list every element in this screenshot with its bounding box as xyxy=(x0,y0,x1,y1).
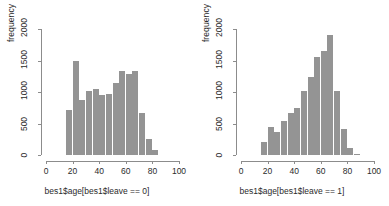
histogram-bar xyxy=(73,61,79,155)
x-axis-title-left: bes1$age[bes1$leave == 0] xyxy=(0,186,194,196)
histogram-bar xyxy=(132,71,138,155)
x-tick-label: 0 xyxy=(34,166,58,176)
histogram-bar xyxy=(321,51,327,155)
x-tick-mark xyxy=(126,161,127,164)
histogram-bar xyxy=(288,113,294,155)
x-tick-mark xyxy=(241,161,242,164)
histogram-panel-leave-0: frequency 0500100015002000 020406080100 … xyxy=(0,0,194,206)
x-tick-label: 0 xyxy=(229,166,253,176)
x-axis-title-right: bes1$age[bes1$leave == 1] xyxy=(195,186,389,196)
histogram-bar xyxy=(66,110,72,155)
x-tick-mark xyxy=(321,161,322,164)
histogram-bar xyxy=(139,113,145,155)
x-axis-line xyxy=(46,161,179,162)
histogram-bar xyxy=(347,148,353,155)
histogram-bar xyxy=(301,91,307,155)
x-tick-mark xyxy=(347,161,348,164)
histogram-bar xyxy=(146,139,152,155)
plot-area-left xyxy=(0,0,194,155)
histogram-bar xyxy=(334,91,340,155)
y-tick-mark xyxy=(38,155,41,156)
histogram-bar xyxy=(86,91,92,155)
x-tick-mark xyxy=(152,161,153,164)
x-tick-label: 40 xyxy=(282,166,306,176)
x-tick-label: 20 xyxy=(61,166,85,176)
x-tick-mark xyxy=(374,161,375,164)
histogram-bar xyxy=(308,77,314,155)
x-tick-label: 20 xyxy=(256,166,280,176)
histogram-bar xyxy=(274,132,280,155)
histogram-bar xyxy=(113,83,119,155)
histogram-bar xyxy=(294,108,300,155)
x-tick-label: 80 xyxy=(140,166,164,176)
x-tick-label: 60 xyxy=(309,166,333,176)
histogram-bar xyxy=(354,154,360,155)
y-tick-mark xyxy=(233,155,236,156)
histogram-bar xyxy=(281,121,287,155)
histogram-bar xyxy=(93,89,99,155)
histogram-panel-leave-1: frequency 0500100015002000 020406080100 … xyxy=(195,0,389,206)
histogram-bar xyxy=(79,100,85,155)
x-axis-line xyxy=(241,161,374,162)
x-tick-mark xyxy=(294,161,295,164)
x-axis-title-right-text: bes1$age[bes1$leave == 1] xyxy=(240,186,345,196)
histogram-bar xyxy=(152,150,158,155)
x-tick-label: 60 xyxy=(114,166,138,176)
histogram-bar xyxy=(261,142,267,155)
histogram-bar xyxy=(119,71,125,155)
histogram-bar xyxy=(341,129,347,155)
x-tick-mark xyxy=(99,161,100,164)
histogram-bar xyxy=(126,74,132,155)
x-tick-label: 100 xyxy=(167,166,191,176)
x-tick-mark xyxy=(46,161,47,164)
histogram-bar xyxy=(268,127,274,155)
histogram-bar xyxy=(99,95,105,155)
x-tick-mark xyxy=(179,161,180,164)
histogram-bar xyxy=(106,94,112,155)
x-tick-label: 100 xyxy=(362,166,386,176)
figure-root: frequency 0500100015002000 020406080100 … xyxy=(0,0,389,206)
x-tick-mark xyxy=(268,161,269,164)
histogram-bar xyxy=(327,35,333,155)
x-axis-title-left-text: bes1$age[bes1$leave == 0] xyxy=(45,186,150,196)
x-tick-label: 80 xyxy=(335,166,359,176)
histogram-bar xyxy=(314,57,320,155)
x-tick-mark xyxy=(73,161,74,164)
plot-area-right xyxy=(195,0,389,155)
x-tick-label: 40 xyxy=(87,166,111,176)
